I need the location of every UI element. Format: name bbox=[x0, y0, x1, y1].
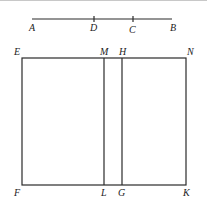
label-f: F bbox=[13, 187, 21, 198]
label-l: L bbox=[100, 187, 107, 198]
label-m: M bbox=[99, 46, 109, 57]
label-d: D bbox=[89, 22, 98, 33]
label-k: K bbox=[182, 187, 191, 198]
label-e: E bbox=[13, 46, 20, 57]
label-h: H bbox=[118, 46, 127, 57]
label-c: C bbox=[129, 24, 136, 35]
label-n: N bbox=[186, 46, 195, 57]
geometry-diagram: A D C B E M H N F L G K bbox=[0, 0, 207, 205]
label-a: A bbox=[28, 22, 36, 33]
label-g: G bbox=[118, 187, 125, 198]
label-b: B bbox=[170, 22, 176, 33]
